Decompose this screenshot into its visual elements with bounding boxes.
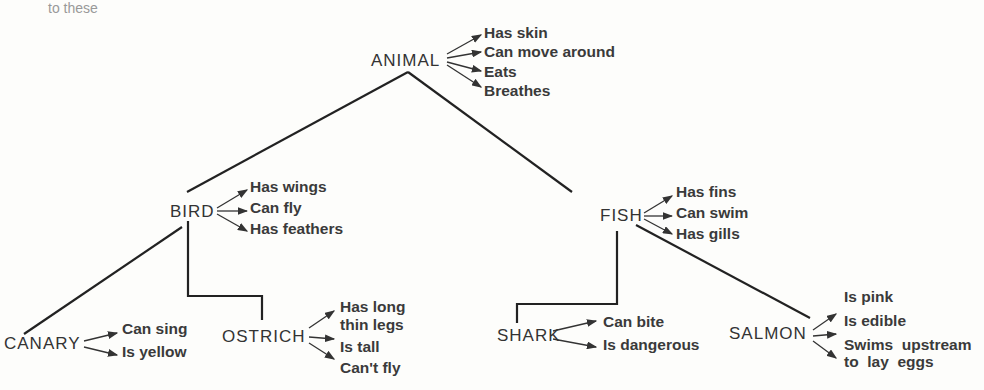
- node-animal: ANIMAL: [371, 51, 440, 71]
- ostrich-property: thin legs: [340, 316, 404, 334]
- animal-property: Breathes: [484, 82, 550, 100]
- fish-property: Has gills: [676, 225, 740, 243]
- ostrich-property: Has long: [340, 298, 405, 316]
- ostrich-property: Can't fly: [340, 359, 401, 377]
- node-shark: SHARK: [497, 326, 561, 346]
- salmon-property: Is pink: [844, 288, 893, 306]
- salmon-property: to lay eggs: [844, 353, 934, 371]
- node-fish: FISH: [600, 206, 643, 226]
- bird-property: Has wings: [250, 178, 327, 196]
- salmon-property: Is edible: [844, 312, 906, 330]
- animal-property: Has skin: [484, 24, 548, 42]
- node-canary: CANARY: [4, 334, 81, 354]
- shark-property: Is dangerous: [603, 336, 699, 354]
- animal-property: Can move around: [484, 43, 615, 61]
- cropped-heading-fragment: to these: [48, 0, 98, 16]
- node-bird: BIRD: [170, 202, 215, 222]
- fish-property: Has fins: [676, 183, 736, 201]
- animal-property: Eats: [484, 63, 517, 81]
- node-ostrich: OSTRICH: [222, 327, 306, 347]
- canary-property: Is yellow: [122, 343, 187, 361]
- fish-property: Can swim: [676, 204, 748, 222]
- node-salmon: SALMON: [729, 324, 807, 344]
- bird-property: Has feathers: [250, 220, 343, 238]
- canary-property: Can sing: [122, 320, 187, 338]
- shark-property: Can bite: [603, 313, 664, 331]
- ostrich-property: Is tall: [340, 338, 380, 356]
- salmon-property: Swims upstream: [844, 336, 972, 354]
- bird-property: Can fly: [250, 199, 302, 217]
